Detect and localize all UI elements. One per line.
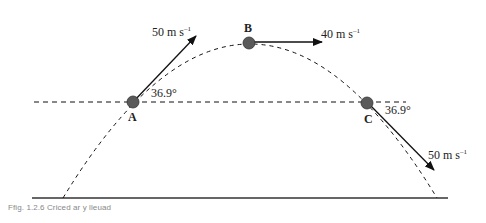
velocity-label-c: 50 m s–1 bbox=[428, 148, 468, 162]
velocity-label-a: 50 m s–1 bbox=[152, 25, 192, 39]
angle-label-a: 36.9° bbox=[151, 86, 177, 100]
projectile-diagram: A B C 50 m s–1 40 m s–1 50 m s–1 36.9° 3… bbox=[0, 0, 486, 223]
angle-label-c: 36.9° bbox=[385, 103, 411, 117]
point-label-b: B bbox=[244, 21, 252, 35]
ball-c bbox=[361, 97, 373, 109]
figure-caption: Ffig. 1.2.6 Criced ar y lleuad bbox=[8, 203, 111, 212]
trajectory-path bbox=[63, 44, 437, 198]
ball-b bbox=[243, 37, 255, 49]
velocity-label-b: 40 m s–1 bbox=[321, 27, 361, 41]
ball-a bbox=[127, 96, 139, 108]
point-label-a: A bbox=[128, 110, 137, 124]
point-label-c: C bbox=[364, 112, 373, 126]
